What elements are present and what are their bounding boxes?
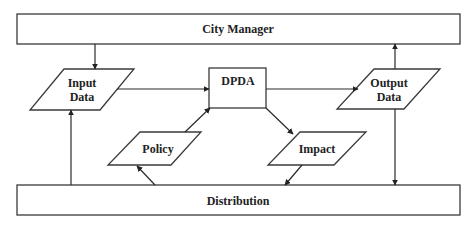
- policy-label: Policy: [142, 142, 173, 156]
- city-manager-label: City Manager: [202, 22, 274, 36]
- input-data-label: Input Data: [68, 76, 97, 104]
- output-data-label: Output Data: [370, 76, 407, 104]
- arrow-dpda-to-impact: [266, 108, 293, 134]
- input-data-line1: Input: [68, 76, 97, 90]
- arrow-policy-to-dpda: [185, 108, 210, 132]
- output-data-line1: Output: [370, 76, 407, 90]
- dpda-label: DPDA: [221, 74, 254, 88]
- arrow-distribution-to-policy: [137, 166, 155, 185]
- impact-label: Impact: [299, 142, 336, 156]
- distribution-label: Distribution: [207, 194, 270, 208]
- arrow-impact-to-distribution: [285, 165, 302, 185]
- input-data-line2: Data: [68, 90, 97, 104]
- output-data-line2: Data: [370, 90, 407, 104]
